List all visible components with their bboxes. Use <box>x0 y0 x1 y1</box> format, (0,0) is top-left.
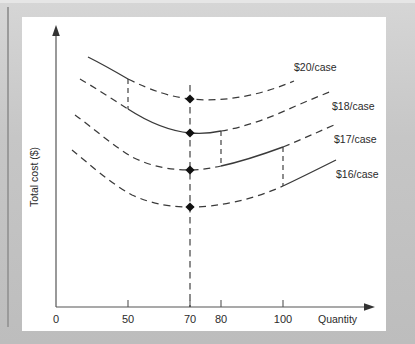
x-tick-labels: 0 50 70 80 100 <box>53 313 292 325</box>
total-cost-step-chart: 0 50 70 80 100 Quantity Total cost ($) <box>22 17 386 331</box>
series-label-17: $17/case <box>334 133 377 145</box>
series-17-dashed-left <box>75 115 221 170</box>
x-tick-label-100: 100 <box>274 313 292 325</box>
screenshot-root: 0 50 70 80 100 Quantity Total cost ($) <box>0 0 415 344</box>
y-axis-title: Total cost ($) <box>28 147 40 207</box>
x-axis-arrow-icon <box>364 303 375 311</box>
series-16-solid-segment <box>283 160 336 186</box>
x-tick-label-80: 80 <box>215 313 227 325</box>
series-curve-17 <box>75 115 334 170</box>
series-18-dashed-left <box>80 79 128 109</box>
series-17-dashed-right <box>283 125 334 147</box>
step-drop-lines <box>128 79 283 186</box>
series-16-dashed-left <box>72 150 283 207</box>
series-curve-20 <box>88 57 294 100</box>
x-tick-marks <box>128 300 283 307</box>
y-axis-arrow-icon <box>52 25 60 36</box>
series-label-20: $20/case <box>294 61 337 73</box>
frame-left-shadow <box>7 7 9 327</box>
x-tick-label-origin: 0 <box>53 313 59 325</box>
frame-top-highlight <box>0 0 415 3</box>
marker-point-16 <box>185 203 194 212</box>
series-label-16: $16/case <box>336 168 379 180</box>
series-curve-16 <box>72 150 336 207</box>
series-20-solid-segment <box>88 57 128 79</box>
x-tick-label-70: 70 <box>184 313 196 325</box>
series-label-18: $18/case <box>332 100 375 112</box>
chart-card: 0 50 70 80 100 Quantity Total cost ($) <box>22 17 386 331</box>
marker-point-20 <box>185 95 194 104</box>
series-20-dashed-segment <box>128 79 294 100</box>
series-curve-18 <box>80 79 332 133</box>
series-18-solid-segment <box>128 109 221 133</box>
x-tick-label-50: 50 <box>122 313 134 325</box>
series-labels: $20/case $18/case $17/case $16/case <box>294 61 379 180</box>
x-axis-title: Quantity <box>318 313 358 325</box>
series-17-solid-segment <box>221 147 283 166</box>
marker-point-17 <box>185 166 194 175</box>
marker-point-18 <box>185 129 194 138</box>
